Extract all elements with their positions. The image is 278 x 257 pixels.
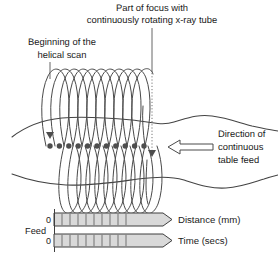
focus-dot [47,143,52,148]
time-scale-bar [54,234,172,247]
focus-dot [66,143,71,148]
distance-bar-body [54,213,172,226]
focus-label-line2: continuously rotating x-ray tube [87,14,217,25]
focus-dot-row [47,143,146,148]
time-bar-body [54,234,172,247]
focus-dot [76,143,81,148]
feed-label: Feed [25,226,46,236]
beginning-label-line2: helical scan [38,49,87,60]
helical-ct-scan-figure: Part of focus with continuously rotating… [0,0,278,257]
direction-label-line1: Direction of [218,128,266,139]
direction-label-line2: continuous [218,141,264,152]
focus-label-line1: Part of focus with [116,2,188,13]
focus-dot [104,143,109,148]
direction-label-line3: table feed [218,154,259,165]
diagram-canvas: Part of focus with continuously rotating… [0,0,278,257]
scan-end-marker [148,150,156,157]
focus-dot [113,143,118,148]
helical-scan-coils [42,69,162,214]
focus-dot [57,143,62,148]
body-bottom-contour [12,174,278,188]
focus-dot [132,143,137,148]
beginning-label-line1: Beginning of the [28,36,96,47]
table-feed-arrow [168,140,213,154]
focus-dot [123,143,128,148]
focus-dot [85,143,90,148]
focus-dot [141,143,146,148]
distance-axis-label: Distance (mm) [178,214,240,225]
focus-dot [94,143,99,148]
time-axis-label: Time (secs) [178,235,228,246]
distance-zero-label: 0 [46,215,51,225]
time-zero-label: 0 [46,236,51,246]
